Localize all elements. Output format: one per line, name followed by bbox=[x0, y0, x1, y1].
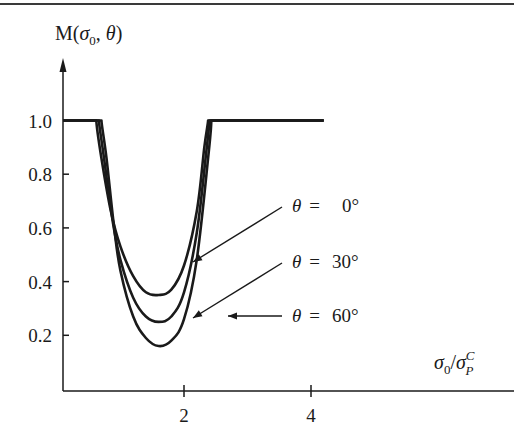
arrowhead-icon bbox=[193, 310, 202, 318]
y-tick-label: 0.6 bbox=[28, 218, 52, 239]
y-axis-arrow-icon bbox=[60, 58, 67, 72]
x-axis-label: σ0/σCP bbox=[434, 348, 475, 378]
axes bbox=[63, 62, 514, 391]
y-tick-label: 0.2 bbox=[28, 325, 52, 346]
curve-theta-30 bbox=[63, 121, 324, 322]
leader-line bbox=[193, 263, 282, 318]
annotation-label: θ=0° bbox=[292, 195, 359, 216]
leader-line bbox=[193, 207, 282, 262]
annotations: θ=0°θ=30°θ=60° bbox=[193, 195, 359, 326]
x-tick-label: 4 bbox=[306, 405, 316, 426]
y-tick-label: 0.8 bbox=[28, 164, 52, 185]
arrowhead-icon bbox=[228, 313, 237, 320]
y-tick-label: 1.0 bbox=[28, 111, 52, 132]
annotation-label: θ=60° bbox=[292, 305, 359, 326]
y-axis-label: M(σ0, θ) bbox=[55, 22, 122, 48]
chart: M(σ0, θ) 0.20.40.60.81.0 24 θ=0°θ=30°θ=6… bbox=[0, 0, 514, 441]
x-tick-label: 2 bbox=[179, 405, 189, 426]
annotation-label: θ=30° bbox=[292, 251, 359, 272]
curves bbox=[63, 121, 324, 347]
y-tick-label: 0.4 bbox=[28, 272, 52, 293]
